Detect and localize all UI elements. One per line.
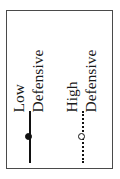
legend-frame: Low Defensive High Defensive bbox=[6, 10, 113, 169]
legend-entry-high-defensive[interactable]: High Defensive bbox=[60, 11, 114, 168]
legend-entry-low-defensive[interactable]: Low Defensive bbox=[7, 11, 60, 168]
legend-label-word-defensive-2: Defensive bbox=[83, 49, 99, 112]
legend-label-word-low: Low bbox=[11, 84, 27, 112]
legend-label-word-high: High bbox=[64, 81, 80, 112]
legend-figure: Low Defensive High Defensive bbox=[0, 0, 120, 179]
legend-marker-high-defensive bbox=[60, 111, 114, 163]
legend-marker-filled-circle-icon bbox=[25, 133, 32, 140]
legend-marker-open-circle-icon bbox=[78, 133, 85, 140]
legend-label-word-defensive: Defensive bbox=[30, 49, 46, 112]
legend-marker-low-defensive bbox=[7, 111, 60, 163]
